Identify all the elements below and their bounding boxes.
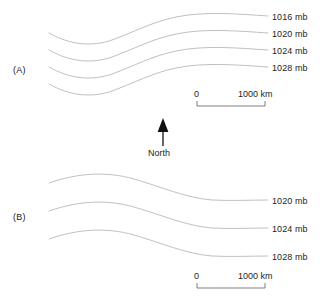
- isobar-label-b-1024: 1024 mb: [272, 224, 308, 234]
- isobar-curve-1028: [49, 64, 268, 95]
- scale-end-label-a: 1000 km: [238, 89, 273, 99]
- isobar-label-1028: 1028 mb: [272, 63, 308, 73]
- panel-label-b: (B): [13, 212, 26, 222]
- isobar-label-1016: 1016 mb: [272, 12, 308, 22]
- scale-bar-panel-a: [197, 101, 265, 106]
- panel-b-isobar-group: [49, 174, 268, 256]
- scale-start-label-a: 0: [194, 89, 199, 99]
- panel-a-isobar-group: [49, 13, 268, 95]
- isobar-curve-1024: [49, 47, 268, 78]
- north-arrow-icon: [158, 118, 169, 146]
- isobar-curve-1016: [49, 13, 268, 44]
- scale-bar-panel-b: [197, 283, 265, 288]
- isobar-curve-1020: [49, 30, 268, 61]
- isobar-label-1024: 1024 mb: [272, 46, 308, 56]
- scale-start-label-b: 0: [194, 271, 199, 281]
- isobar-curve-b-1024: [49, 202, 268, 228]
- isobar-label-b-1028: 1028 mb: [272, 252, 308, 262]
- isobar-curve-b-1028: [49, 230, 268, 256]
- isobar-label-1020: 1020 mb: [272, 29, 308, 39]
- panel-label-a: (A): [13, 65, 26, 75]
- north-label: North: [148, 148, 170, 158]
- isobar-label-b-1020: 1020 mb: [272, 196, 308, 206]
- scale-end-label-b: 1000 km: [238, 271, 273, 281]
- isobar-curve-b-1020: [49, 174, 268, 200]
